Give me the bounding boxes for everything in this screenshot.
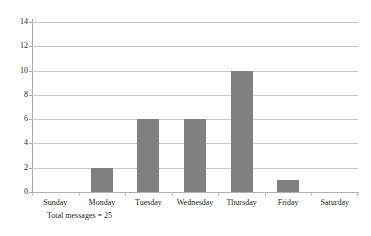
x-axis-label-tuesday: Tuesday bbox=[125, 197, 172, 208]
bar-slot-saturday bbox=[311, 22, 358, 192]
bars-layer bbox=[32, 22, 358, 192]
x-tick-7 bbox=[357, 193, 358, 196]
bar-slot-wednesday bbox=[172, 22, 219, 192]
x-tick-1 bbox=[79, 193, 80, 196]
bar-wednesday[interactable] bbox=[184, 119, 206, 192]
bar-chart-figure: 14 12 10 8 6 4 2 0 bbox=[0, 0, 371, 236]
plot-area: 14 12 10 8 6 4 2 0 bbox=[32, 22, 358, 192]
y-tick-label-10: 10 bbox=[20, 67, 28, 75]
x-axis-label-saturday: Saturday bbox=[311, 197, 358, 208]
chart-caption: Total messages = 25 bbox=[47, 211, 112, 221]
y-tick-label-12: 12 bbox=[20, 42, 28, 50]
x-axis-label-friday: Friday bbox=[265, 197, 312, 208]
x-axis-label-monday: Monday bbox=[79, 197, 126, 208]
x-tick-6 bbox=[311, 193, 312, 196]
bar-tuesday[interactable] bbox=[137, 119, 159, 192]
x-tick-5 bbox=[265, 193, 266, 196]
bar-monday[interactable] bbox=[91, 168, 113, 192]
x-tick-2 bbox=[125, 193, 126, 196]
bar-slot-tuesday bbox=[125, 22, 172, 192]
bar-thursday[interactable] bbox=[231, 71, 253, 192]
bar-slot-sunday bbox=[32, 22, 79, 192]
x-tick-3 bbox=[172, 193, 173, 196]
y-tick-label-6: 6 bbox=[24, 115, 28, 123]
bar-slot-friday bbox=[265, 22, 312, 192]
y-tick-label-0: 0 bbox=[24, 188, 28, 196]
x-axis-label-wednesday: Wednesday bbox=[172, 197, 219, 208]
x-axis-label-thursday: Thursday bbox=[218, 197, 265, 208]
y-tick-label-4: 4 bbox=[24, 139, 28, 147]
x-tick-4 bbox=[218, 193, 219, 196]
x-axis-label-sunday: Sunday bbox=[32, 197, 79, 208]
y-tick-label-2: 2 bbox=[24, 164, 28, 172]
y-tick-label-8: 8 bbox=[24, 91, 28, 99]
bar-friday[interactable] bbox=[277, 180, 299, 192]
bar-slot-monday bbox=[79, 22, 126, 192]
x-tick-0 bbox=[32, 193, 33, 196]
x-axis-labels: Sunday Monday Tuesday Wednesday Thursday… bbox=[32, 197, 358, 208]
y-tick-label-14: 14 bbox=[20, 18, 28, 26]
bar-slot-thursday bbox=[218, 22, 265, 192]
